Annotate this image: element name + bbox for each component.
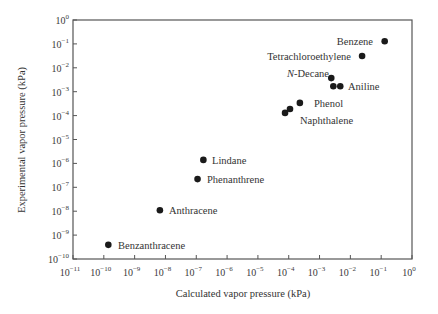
y-tick-label: 10−6 [52, 156, 70, 169]
data-point [297, 100, 304, 107]
point-label: N-Decane [286, 68, 329, 79]
x-tick-label: 10−9 [123, 265, 141, 278]
axis-ticks: 10−1110−1010−910−810−710−610−510−410−310… [48, 13, 416, 278]
x-tick-label: 10−7 [185, 265, 203, 278]
x-tick-label: 100 [402, 265, 416, 278]
y-tick-label: 10−8 [52, 204, 70, 217]
x-tick-label: 10−6 [215, 265, 233, 278]
y-tick-label: 10−5 [52, 133, 70, 146]
x-tick-label: 10−3 [308, 265, 326, 278]
data-point [282, 110, 289, 117]
y-tick-label: 10−2 [52, 61, 70, 74]
y-axis-title: Experimental vapor pressure (kPa) [16, 66, 28, 213]
x-tick-label: 10−8 [154, 265, 172, 278]
point-label: Lindane [212, 155, 247, 166]
data-point [157, 207, 164, 214]
data-point [337, 83, 344, 90]
data-point [330, 83, 337, 90]
data-point [105, 242, 112, 249]
y-tick-label: 10−3 [52, 85, 70, 98]
point-label: Phenol [314, 98, 343, 109]
point-label: Anthracene [169, 205, 218, 216]
point-label: Phenanthrene [207, 174, 264, 185]
x-tick-label: 10−4 [277, 265, 295, 278]
y-tick-label: 10−7 [52, 180, 70, 193]
x-tick-label: 10−2 [339, 265, 357, 278]
data-points [105, 38, 388, 248]
x-tick-label: 10−11 [60, 265, 81, 278]
point-label: Tetrachloroethylene [267, 51, 351, 62]
point-label: Aniline [348, 81, 380, 92]
x-tick-label: 10−5 [246, 265, 264, 278]
point-label: Naphthalene [300, 115, 353, 126]
x-tick-label: 10−10 [90, 265, 111, 278]
y-tick-label: 10−10 [48, 252, 69, 265]
data-point [200, 157, 207, 164]
x-axis-title: Calculated vapor pressure (kPa) [176, 288, 311, 300]
y-tick-label: 100 [56, 13, 70, 26]
data-point [381, 38, 388, 45]
scatter-chart: 10−1110−1010−910−810−710−610−510−410−310… [0, 0, 438, 314]
y-tick-label: 10−9 [52, 228, 70, 241]
point-label: Benzanthracene [118, 240, 185, 251]
point-labels: BenzeneTetrachloroethyleneN-DecaneAnilin… [118, 36, 380, 251]
data-point [359, 53, 366, 60]
y-tick-label: 10−1 [52, 37, 70, 50]
x-tick-label: 10−1 [369, 265, 387, 278]
point-label: Benzene [337, 36, 373, 47]
y-tick-label: 10−4 [52, 109, 70, 122]
data-point [194, 176, 201, 183]
